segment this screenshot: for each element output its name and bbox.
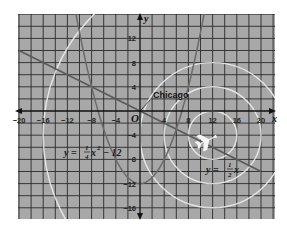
- x-tick-label: 8: [186, 116, 190, 125]
- svg-text:− 12: − 12: [103, 147, 122, 158]
- x-tick-label: −20: [13, 116, 26, 125]
- y-tick-label: 12: [128, 34, 136, 43]
- y-tick-label: −8: [127, 155, 136, 164]
- svg-text:x: x: [233, 164, 239, 175]
- y-tick-label: 8: [132, 59, 136, 68]
- svg-text:y =: y =: [205, 164, 219, 175]
- x-tick-label: −16: [37, 116, 50, 125]
- svg-text:2: 2: [96, 144, 101, 152]
- svg-text:y =: y =: [63, 147, 77, 158]
- x-tick-label: −8: [87, 116, 96, 125]
- chicago-label: Chicago: [153, 90, 189, 100]
- coordinate-plane-chart: −20−16−12−8−4481216201284−4−8−12−16 x y …: [0, 0, 287, 233]
- svg-text:1: 1: [85, 144, 89, 152]
- svg-text:4: 4: [84, 153, 89, 161]
- y-axis-label: y: [143, 13, 149, 24]
- origin-label: O: [131, 112, 139, 124]
- x-tick-label: −12: [61, 116, 74, 125]
- x-tick-label: 20: [257, 116, 265, 125]
- x-tick-label: 16: [233, 116, 241, 125]
- x-tick-label: 12: [208, 116, 216, 125]
- y-tick-label: −4: [127, 131, 136, 140]
- svg-text:1: 1: [228, 161, 232, 169]
- svg-text:2: 2: [227, 171, 232, 179]
- y-tick-label: −16: [123, 204, 136, 213]
- x-tick-label: −4: [112, 116, 121, 125]
- x-axis-label: x: [271, 113, 277, 124]
- svg-text:x: x: [90, 147, 96, 158]
- y-tick-label: −12: [123, 180, 136, 189]
